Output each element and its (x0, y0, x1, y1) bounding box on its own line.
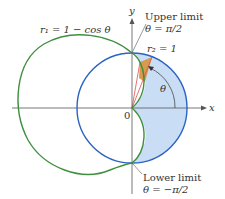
polar-area-diagram: r₁ = 1 − cos θ r₂ = 1 Upper limit θ = π/… (0, 0, 225, 199)
upper-limit-title: Upper limit (145, 11, 203, 22)
upper-limit-leader (132, 24, 146, 53)
y-axis-arrow-icon (130, 18, 135, 24)
lower-limit-title: Lower limit (143, 172, 201, 183)
circle-label: r₂ = 1 (147, 43, 177, 54)
x-axis-arrow-icon (201, 106, 207, 111)
cardioid-label: r₁ = 1 − cos θ (40, 24, 111, 35)
upper-limit-value: θ = π/2 (145, 23, 182, 34)
cardioid-curve (18, 35, 144, 175)
lower-limit-value: θ = −π/2 (143, 184, 188, 195)
theta-label: θ (160, 83, 166, 94)
lower-limit-leader (132, 163, 142, 174)
diagram-canvas (0, 0, 225, 199)
x-axis-label: x (209, 102, 215, 113)
origin-label: 0 (124, 110, 130, 121)
y-axis-label: y (129, 5, 135, 16)
